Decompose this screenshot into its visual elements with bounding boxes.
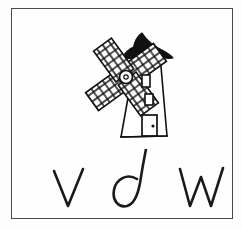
window-upper-icon — [142, 75, 150, 87]
sail-hub-icon — [120, 71, 133, 84]
flashcard-image — [0, 0, 242, 229]
letter-v — [54, 169, 83, 206]
door-icon — [142, 115, 157, 136]
ground-line — [120, 136, 168, 137]
handwritten-letters-row — [24, 149, 242, 225]
window-lower-icon — [145, 94, 153, 105]
letter-d — [114, 149, 146, 206]
card-border-frame — [11, 8, 233, 219]
letter-w — [180, 168, 223, 206]
windmill-illustration — [74, 27, 186, 145]
